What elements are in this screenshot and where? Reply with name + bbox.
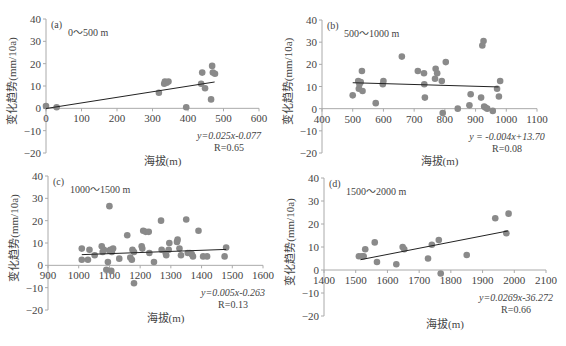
data-points [356, 210, 512, 276]
y-axis-label: 变化趋势(mm/10a) [7, 194, 21, 282]
data-point [101, 246, 108, 253]
data-point [124, 232, 131, 239]
x-tick-label: 1400 [191, 269, 214, 281]
x-axis-label: 海拔(m) [147, 311, 185, 325]
data-point [221, 253, 228, 260]
data-point [178, 252, 185, 259]
data-point [78, 245, 85, 252]
data-point [422, 94, 429, 101]
data-point [183, 216, 190, 223]
data-point [415, 68, 422, 75]
chart-panel-b: −20−100102030404005006007008009001000110… [280, 0, 566, 170]
chart-panel-c: −20−100102030409001000110012001300140015… [0, 170, 280, 338]
y-axis: −20−10010203040 [24, 13, 46, 159]
y-tick-label: 10 [30, 80, 42, 92]
x-tick-label: 500 [344, 113, 361, 125]
x-tick-label: 2000 [503, 274, 526, 286]
x-axis-label: 海拔(m) [421, 154, 459, 168]
y-tick-label: 20 [30, 58, 42, 70]
y-tick-label: 40 [32, 170, 44, 182]
data-point [399, 53, 406, 60]
y-tick-label: −10 [24, 125, 42, 137]
y-tick-label: 30 [306, 36, 318, 48]
data-point [86, 246, 93, 253]
x-tick-label: 700 [406, 113, 423, 125]
data-point [208, 96, 215, 103]
data-point [174, 236, 181, 243]
x-tick-label: 1900 [472, 274, 495, 286]
data-point [489, 108, 496, 115]
y-tick-label: −20 [26, 304, 44, 316]
y-tick-label: 20 [308, 218, 320, 230]
chart-panel-a: −20−100102030400100200300400500600(a)0～5… [0, 0, 280, 170]
data-point [183, 104, 190, 111]
y-tick-label: 20 [32, 215, 44, 227]
data-point [139, 245, 146, 252]
data-point [463, 252, 470, 259]
data-point [442, 59, 449, 66]
y-tick-label: 40 [306, 14, 318, 26]
x-tick-label: 900 [467, 113, 484, 125]
data-point [158, 217, 165, 224]
data-point [374, 259, 381, 266]
data-point [436, 237, 443, 244]
data-point [116, 255, 123, 262]
x-tick-label: 900 [40, 269, 57, 281]
y-tick-label: −10 [26, 282, 44, 294]
data-point [393, 261, 400, 268]
x-tick-label: 300 [144, 112, 161, 124]
x-tick-label: 0 [43, 112, 49, 124]
trendline [360, 231, 507, 260]
data-point [497, 78, 504, 85]
x-tick-label: 600 [375, 113, 392, 125]
data-point [145, 229, 152, 236]
x-tick-label: 1200 [129, 269, 152, 281]
y-tick-label: 10 [306, 81, 318, 93]
y-tick-label: 10 [32, 237, 44, 249]
x-tick-label: 1800 [440, 274, 463, 286]
y-tick-label: 20 [306, 58, 318, 70]
panel-label: (d) [329, 178, 341, 190]
data-point [357, 79, 364, 86]
x-axis: 9001000110012001300140015001600 [40, 265, 275, 281]
data-point [466, 102, 473, 109]
data-point [91, 252, 98, 259]
data-point [359, 68, 366, 75]
data-point [439, 110, 446, 117]
x-tick-label: 2100 [535, 274, 558, 286]
data-point [438, 78, 445, 85]
y-tick-label: −20 [300, 147, 318, 159]
x-tick-label: 600 [251, 112, 268, 124]
y-tick-label: 30 [30, 35, 42, 47]
data-point [151, 259, 158, 266]
x-axis-label: 海拔(m) [426, 317, 464, 331]
panel-label: (b) [327, 20, 339, 32]
data-point [108, 268, 115, 275]
data-point [454, 105, 461, 112]
data-point [131, 280, 138, 287]
panel-subtitle: 1000～1500 m [70, 184, 131, 195]
data-point [467, 91, 474, 98]
data-point [425, 255, 432, 262]
x-tick-label: 1600 [376, 274, 399, 286]
y-tick-label: 40 [308, 172, 320, 184]
y-axis: −20−10010203040 [300, 14, 322, 159]
panel-label: (a) [51, 19, 62, 31]
data-point [372, 100, 379, 107]
y-tick-label: −20 [24, 147, 42, 159]
data-point [212, 70, 219, 77]
x-tick-label: 1000 [68, 269, 91, 281]
data-point [199, 69, 206, 76]
x-axis: 14001500160017001800190020002100 [313, 270, 558, 286]
y-axis: −20−10010203040 [302, 172, 324, 322]
correlation-r: R=0.13 [218, 299, 248, 310]
x-tick-label: 200 [109, 112, 126, 124]
data-point [195, 227, 202, 234]
data-point [202, 85, 209, 92]
data-point [204, 253, 211, 260]
regression-equation: y = -0.004x+13.70 [468, 131, 545, 142]
x-axis: 0100200300400500600 [43, 108, 268, 124]
x-axis: 40050060070080090010001100 [314, 109, 549, 125]
data-point [190, 253, 197, 260]
y-axis-label: 变化趋势(mm/10a) [281, 37, 295, 125]
